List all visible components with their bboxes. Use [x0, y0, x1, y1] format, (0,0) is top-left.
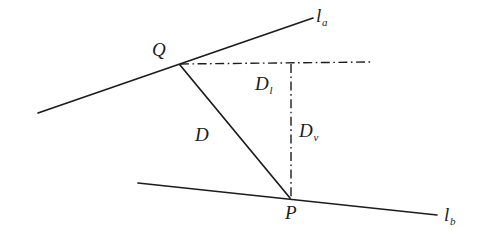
- label-distance-dl-sub: l: [269, 84, 272, 96]
- label-point-p-base: P: [285, 202, 297, 223]
- geometry-diagram: la lb Q P D Dl Dv: [0, 0, 479, 243]
- label-distance-d-base: D: [195, 124, 209, 145]
- label-line-lb: lb: [444, 205, 455, 227]
- diagram-canvas: [0, 0, 479, 243]
- label-line-lb-base: l: [444, 204, 449, 225]
- label-point-p: P: [285, 203, 297, 222]
- line-la: [38, 18, 313, 113]
- label-line-la-sub: a: [322, 16, 328, 28]
- label-distance-dv-sub: v: [313, 131, 318, 143]
- label-point-q-base: Q: [152, 39, 166, 60]
- label-point-q: Q: [152, 40, 166, 59]
- label-distance-dv-base: D: [299, 120, 313, 141]
- label-distance-dl: Dl: [255, 74, 272, 96]
- label-line-lb-sub: b: [450, 215, 456, 227]
- label-distance-dv: Dv: [299, 121, 318, 143]
- dashdot-horizontal-line: [180, 62, 371, 64]
- label-line-la: la: [316, 6, 327, 28]
- label-line-la-base: l: [316, 5, 321, 26]
- label-distance-d: D: [195, 125, 209, 144]
- label-distance-dl-base: D: [255, 73, 269, 94]
